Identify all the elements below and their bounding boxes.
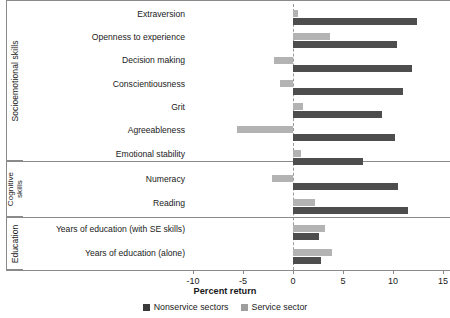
category-label-column: Extraversion Openness to experience Deci… — [23, 0, 191, 270]
bar-nonservice-sectors-agreeableness — [293, 134, 395, 141]
legend-item-nonservice[interactable]: Nonservice sectors — [143, 302, 229, 312]
legend-label-nonservice: Nonservice sectors — [154, 302, 229, 312]
bar-nonservice-sectors-years-of-education-alone — [293, 257, 321, 264]
bar-nonservice-sectors-grit — [293, 111, 382, 118]
category-label-numeracy: Numeracy — [146, 175, 185, 184]
x-ticklabel-10: 10 — [378, 276, 408, 286]
x-tick--5 — [243, 270, 244, 274]
bar-nonservice-sectors-decision-making — [293, 65, 412, 72]
group-bracket-education: Education — [6, 217, 23, 270]
bar-nonservice-sectors-emotional-stability — [293, 158, 363, 165]
bar-service-sector-decision-making — [274, 57, 293, 64]
chart-figure: Socioemotional skills Cognitive skills E… — [0, 0, 450, 318]
x-ticklabel-0: 0 — [278, 276, 308, 286]
bar-nonservice-sectors-openness-to-experience — [293, 41, 397, 48]
x-axis-title: Percent return — [0, 286, 450, 296]
legend-swatch-nonservice-icon — [143, 304, 150, 311]
category-label-years-with-se: Years of education (with SE skills) — [56, 225, 185, 234]
category-label-grit: Grit — [171, 103, 185, 112]
bar-service-sector-agreeableness — [237, 126, 293, 133]
bar-service-sector-extraversion — [293, 10, 298, 17]
legend-item-service[interactable]: Service sector — [241, 302, 308, 312]
legend-swatch-service-icon — [241, 304, 248, 311]
category-label-years-alone: Years of education (alone) — [85, 249, 185, 258]
bar-nonservice-sectors-extraversion — [293, 18, 417, 25]
x-tick-5 — [343, 270, 344, 274]
bar-service-sector-years-of-education-with-se-skills — [293, 225, 325, 232]
category-label-reading: Reading — [153, 199, 185, 208]
group-bracket-socioemotional: Socioemotional skills — [6, 0, 23, 161]
category-label-emotional-stability: Emotional stability — [116, 150, 185, 159]
x-ticklabel-15: 15 — [428, 276, 450, 286]
x-ticklabel--10: -10 — [178, 276, 208, 286]
bar-service-sector-years-of-education-alone — [293, 249, 332, 256]
x-ticklabel--5: -5 — [228, 276, 258, 286]
bar-service-sector-numeracy — [272, 175, 293, 182]
group-label-socioemotional: Socioemotional skills — [10, 40, 20, 121]
category-label-extraversion: Extraversion — [137, 10, 185, 19]
legend-label-service: Service sector — [252, 302, 308, 312]
category-label-openness: Openness to experience — [92, 33, 185, 42]
x-tick--10 — [193, 270, 194, 274]
x-tick-10 — [393, 270, 394, 274]
bar-service-sector-grit — [293, 103, 303, 110]
x-tick-0 — [293, 270, 294, 274]
bar-nonservice-sectors-conscientiousness — [293, 88, 403, 95]
group-label-cognitive: Cognitive skills — [6, 172, 24, 206]
chart-legend: Nonservice sectors Service sector — [0, 302, 450, 312]
category-label-agreeableness: Agreeableness — [128, 126, 185, 135]
group-bracket-cognitive: Cognitive skills — [6, 161, 23, 217]
bar-service-sector-emotional-stability — [293, 150, 301, 157]
bar-nonservice-sectors-numeracy — [293, 183, 398, 190]
group-label-education: Education — [10, 224, 20, 263]
category-label-conscientiousness: Conscientiousness — [113, 80, 185, 89]
x-ticklabel-5: 5 — [328, 276, 358, 286]
bar-nonservice-sectors-years-of-education-with-se-skills — [293, 233, 319, 240]
x-tick-15 — [443, 270, 444, 274]
x-axis-line — [193, 270, 443, 271]
bar-service-sector-openness-to-experience — [293, 33, 330, 40]
category-label-decision-making: Decision making — [122, 56, 185, 65]
bar-service-sector-reading — [293, 199, 315, 206]
plot-area: -10 -5 0 5 10 15 — [193, 4, 443, 270]
bar-service-sector-conscientiousness — [280, 80, 293, 87]
bar-nonservice-sectors-reading — [293, 207, 408, 214]
